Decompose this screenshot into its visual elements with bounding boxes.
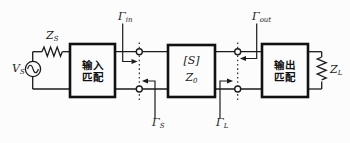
z0-base: Z [185,71,193,84]
gamma-s-arrowhead-icon [142,78,148,83]
z0-sub: 0 [193,77,197,85]
input-matching-line1: 输入 [82,59,104,71]
input-matching-line2: 匹配 [82,71,104,83]
gamma-out-label: Γout [252,11,271,22]
gamma-out-base: Γ [252,10,260,23]
gamma-s-label: ΓS [152,117,164,128]
source-impedance-resistor-icon [42,47,62,56]
input-matching-box-label: 输入 匹配 [70,44,115,97]
s-matrix-label: [S] [168,55,215,66]
gamma-l-sub: L [224,122,229,130]
ac-source-icon [25,61,40,76]
gamma-l-arrowhead-icon [227,78,233,83]
gamma-out-arrow-line [246,24,257,59]
gamma-s-sub: S [160,122,165,130]
node-input-bottom [136,86,142,92]
node-input-top [136,49,142,55]
gamma-in-base: Γ [118,10,126,23]
source-impedance-label: ZS [46,30,58,41]
load-impedance-resistor-icon [317,57,326,80]
node-output-bottom [235,86,241,92]
circuit-diagram: VS ZS Γin Γout ΓS ΓL 输入 匹配 [S] Z0 输出 匹配 … [0,0,350,143]
output-matching-line1: 输出 [274,59,296,71]
gamma-s-arrow-line [148,81,155,119]
s-network-impedance-label: Z0 [168,72,215,83]
zs-base: Z [46,29,54,42]
zl-sub: L [338,69,343,77]
node-output-top [235,49,241,55]
output-matching-box-label: 输出 匹配 [262,44,308,97]
gamma-l-label: ΓL [216,117,228,128]
vs-sub: S [20,68,25,76]
gamma-out-sub: out [260,16,272,24]
gamma-l-arrow-line [220,81,227,119]
zs-sub: S [54,35,59,43]
vs-base: V [12,62,20,75]
load-impedance-label: ZL [330,64,342,75]
zl-base: Z [330,63,338,76]
gamma-in-label: Γin [118,11,132,22]
gamma-in-arrow-line [123,24,132,62]
source-voltage-label: VS [12,63,25,74]
gamma-l-base: Γ [216,116,224,129]
gamma-out-arrowhead-icon [240,56,246,61]
gamma-s-base: Γ [152,116,160,129]
gamma-in-arrowhead-icon [132,59,138,64]
output-matching-line2: 匹配 [274,71,296,83]
gamma-in-sub: in [126,16,133,24]
